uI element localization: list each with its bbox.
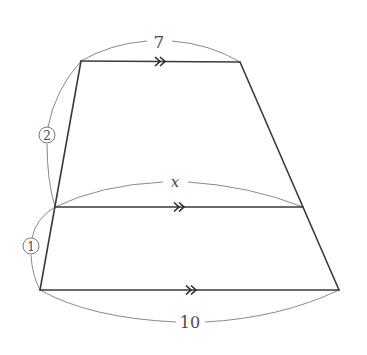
right-leg: [240, 62, 339, 290]
bottom-length-label: 10: [180, 313, 200, 332]
left-leg: [40, 61, 81, 290]
middle-length-label: x: [171, 173, 180, 191]
upper-ratio-label: 2: [43, 129, 51, 143]
diagram-canvas: 7 x 10 2 1: [0, 0, 367, 355]
trapezoid-diagram: 7 x 10 2 1: [0, 0, 367, 355]
top-length-label: 7: [154, 32, 165, 52]
lower-ratio-label: 1: [27, 240, 35, 254]
